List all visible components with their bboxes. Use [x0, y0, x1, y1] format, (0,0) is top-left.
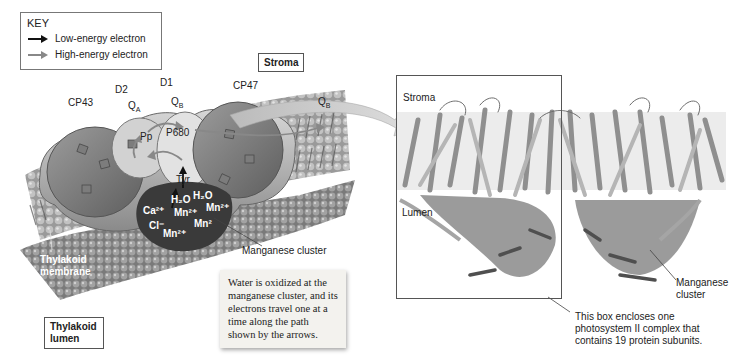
pheophytin-label: Pp — [140, 131, 152, 142]
qa-label: QA — [128, 100, 140, 113]
d2-label: D2 — [115, 84, 128, 95]
thylakoid-lumen-label: Thylakoid lumen — [44, 317, 104, 349]
cp47-label: CP47 — [233, 80, 258, 91]
mn-ion-label-1: Mn²⁺ — [206, 202, 229, 213]
box-caption-line-1: This box encloses one — [575, 311, 675, 322]
h2o-label-2: H₂O — [193, 190, 212, 201]
chloride-ion-label: Cl⁻ — [149, 220, 164, 231]
mn-ion-label-3: Mn² — [194, 218, 212, 229]
structure-stroma-label: Stroma — [403, 92, 435, 103]
qb-mobile-label: QB — [318, 96, 330, 109]
tyrosine-label: Tyr — [176, 174, 190, 185]
mn-ion-label-4: Mn²⁺ — [163, 228, 186, 239]
structure-manganese-label-2: cluster — [676, 289, 705, 300]
photosystem-ii-box — [396, 75, 562, 299]
qb-label: QB — [171, 96, 183, 109]
thylakoid-membrane-label: Thylakoid membrane — [40, 254, 100, 278]
p680-label: P680 — [166, 127, 189, 138]
stroma-label: Stroma — [258, 53, 304, 72]
box-caption-line-2: photosystem II complex that — [575, 323, 700, 334]
structure-manganese-label-1: Manganese — [676, 277, 728, 288]
manganese-cluster-label: Manganese cluster — [242, 245, 327, 256]
explanation-note: Water is oxidized at the manganese clust… — [220, 270, 346, 348]
calcium-ion-label: Ca²⁺ — [143, 205, 164, 216]
cp43-label: CP43 — [68, 97, 93, 108]
box-caption-line-3: contains 19 protein subunits. — [575, 335, 702, 346]
mn-ion-label-2: Mn²⁺ — [174, 207, 197, 218]
d1-label: D1 — [160, 77, 173, 88]
h2o-label-1: H₂O — [171, 194, 190, 205]
structure-lumen-label: Lumen — [402, 207, 433, 218]
photosystem-illustration — [0, 0, 737, 363]
